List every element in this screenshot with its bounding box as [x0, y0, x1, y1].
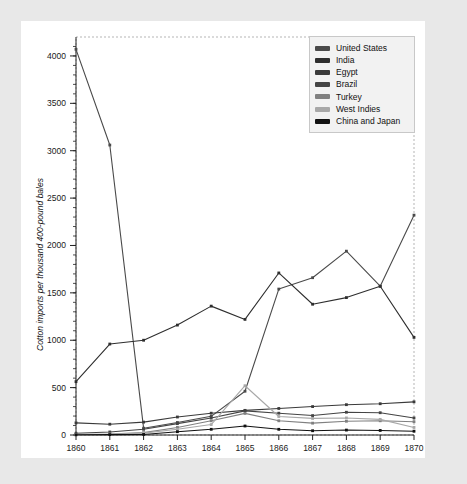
legend-item-label: Brazil — [336, 80, 357, 89]
data-point-marker — [244, 412, 247, 415]
legend-item-label: China and Japan — [336, 117, 400, 126]
data-point-marker — [210, 428, 213, 431]
data-point-marker — [379, 411, 382, 414]
legend-item-turkey[interactable]: Turkey — [315, 91, 409, 103]
legend-item-label: India — [336, 56, 354, 65]
line-chart-figure: Cotton imports per thousand 400-pound ba… — [21, 21, 425, 458]
data-point-marker — [210, 423, 213, 426]
y-axis-title: Cotton imports per thousand 400-pound ba… — [35, 178, 45, 351]
legend-item-label: Turkey — [336, 93, 362, 102]
data-point-marker — [311, 303, 314, 306]
data-point-marker — [277, 419, 280, 422]
data-point-marker — [345, 417, 348, 420]
data-point-marker — [277, 407, 280, 410]
data-point-marker — [176, 430, 179, 433]
legend-item-west-indies[interactable]: West Indies — [315, 103, 409, 115]
data-point-marker — [413, 336, 416, 339]
data-point-marker — [379, 285, 382, 288]
y-tick-label: 1500 — [21, 288, 66, 298]
legend-item-label: United States — [336, 44, 387, 53]
data-point-marker — [277, 412, 280, 415]
x-tick-label: 1870 — [394, 443, 434, 453]
data-point-marker — [413, 430, 416, 433]
legend-item-china-and-japan[interactable]: China and Japan — [315, 115, 409, 127]
data-point-marker — [75, 48, 78, 51]
data-point-marker — [345, 411, 348, 414]
data-point-marker — [311, 405, 314, 408]
data-point-marker — [345, 296, 348, 299]
data-point-marker — [75, 421, 78, 424]
data-point-marker — [277, 428, 280, 431]
data-point-marker — [244, 409, 247, 412]
legend-item-label: Egypt — [336, 68, 358, 77]
data-point-marker — [311, 276, 314, 279]
data-point-marker — [379, 418, 382, 421]
data-point-marker — [379, 429, 382, 432]
y-tick-label: 3500 — [21, 98, 66, 108]
data-point-marker — [142, 339, 145, 342]
data-point-marker — [345, 420, 348, 423]
data-point-marker — [413, 214, 416, 217]
legend-swatch-icon — [315, 107, 330, 112]
chart-card: Cotton imports per thousand 400-pound ba… — [21, 21, 425, 458]
data-point-marker — [108, 343, 111, 346]
data-point-marker — [108, 144, 111, 147]
legend-item-egypt[interactable]: Egypt — [315, 66, 409, 78]
data-point-marker — [176, 422, 179, 425]
data-point-marker — [210, 305, 213, 308]
data-point-marker — [277, 415, 280, 418]
data-point-marker — [413, 426, 416, 429]
y-tick-label: 2500 — [21, 193, 66, 203]
data-point-marker — [108, 433, 111, 436]
legend-swatch-icon — [315, 70, 330, 75]
data-point-marker — [244, 425, 247, 428]
data-point-marker — [244, 318, 247, 321]
legend-swatch-icon — [315, 46, 330, 51]
y-tick-label: 2000 — [21, 240, 66, 250]
chart-legend: United StatesIndiaEgyptBrazilTurkeyWest … — [309, 36, 415, 133]
data-point-marker — [413, 417, 416, 420]
y-tick-label: 1000 — [21, 335, 66, 345]
y-tick-label: 0 — [21, 430, 66, 440]
legend-swatch-icon — [315, 58, 330, 63]
data-point-marker — [75, 380, 78, 383]
data-point-marker — [244, 384, 247, 387]
data-point-marker — [311, 429, 314, 432]
legend-item-brazil[interactable]: Brazil — [315, 79, 409, 91]
data-point-marker — [244, 390, 247, 393]
legend-item-label: West Indies — [336, 105, 380, 114]
data-point-marker — [311, 417, 314, 420]
data-point-marker — [277, 272, 280, 275]
data-point-marker — [142, 421, 145, 424]
y-tick-label: 500 — [21, 383, 66, 393]
data-point-marker — [311, 422, 314, 425]
data-point-marker — [345, 429, 348, 432]
data-point-marker — [210, 419, 213, 422]
legend-swatch-icon — [315, 94, 330, 99]
data-point-marker — [345, 403, 348, 406]
data-point-marker — [311, 414, 314, 417]
data-point-marker — [75, 433, 78, 436]
legend-swatch-icon — [315, 119, 330, 124]
legend-item-united-states[interactable]: United States — [315, 42, 409, 54]
data-point-marker — [210, 412, 213, 415]
data-point-marker — [413, 400, 416, 403]
data-point-marker — [108, 423, 111, 426]
y-tick-label: 4000 — [21, 51, 66, 61]
data-point-marker — [379, 402, 382, 405]
data-point-marker — [142, 428, 145, 431]
legend-swatch-icon — [315, 82, 330, 87]
data-point-marker — [142, 433, 145, 436]
data-point-marker — [210, 417, 213, 420]
data-point-marker — [176, 324, 179, 327]
legend-item-india[interactable]: India — [315, 54, 409, 66]
data-point-marker — [345, 250, 348, 253]
data-point-marker — [176, 416, 179, 419]
data-point-marker — [413, 420, 416, 423]
data-point-marker — [277, 288, 280, 291]
y-tick-label: 3000 — [21, 146, 66, 156]
